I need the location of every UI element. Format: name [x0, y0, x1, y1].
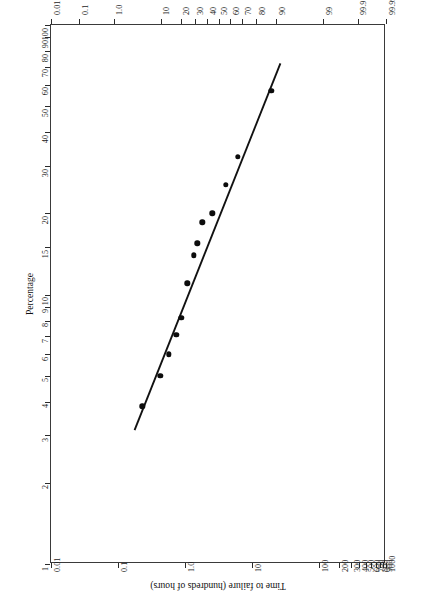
percentage-tick-label: 70 [245, 7, 253, 15]
time-to-failure-tick-label: 30 [42, 169, 50, 177]
percentage-tick [242, 19, 243, 24]
time-to-failure-tick-label: 100 [42, 28, 50, 40]
time-to-failure-tick [45, 376, 50, 377]
time-to-failure-tick-label: 4 [42, 404, 50, 408]
percentage-tick-label: 60 [233, 7, 241, 15]
percentage-tick [219, 19, 220, 24]
fitted-line-segment [135, 63, 281, 430]
percentage-tick [323, 19, 324, 24]
time-to-failure-tick-label: 5 [42, 378, 50, 382]
time-to-failure-tick-label: 60 [42, 87, 50, 95]
time-to-failure-tick [45, 435, 50, 436]
time-to-failure-tick-label: 70 [42, 69, 50, 77]
percentage-tick-label: 99.99 [389, 0, 397, 15]
time-to-failure-tick [45, 106, 50, 107]
time-to-failure-tick [45, 51, 50, 52]
cumulative-hazard-tick-label: 1.0 [188, 562, 196, 572]
percentage-tick-label: 1.0 [116, 5, 124, 15]
percentage-tick-label: 10 [163, 7, 171, 15]
cumulative-hazard-tick [252, 563, 253, 568]
time-to-failure-tick-label: 20 [42, 216, 50, 224]
time-to-failure-tick-label: 15 [42, 250, 50, 258]
time-to-failure-tick [45, 354, 50, 355]
percentage-tick [114, 19, 115, 24]
cumulative-hazard-tick-label: 0.1 [121, 562, 129, 572]
percentage-tick-label: 90 [279, 7, 287, 15]
cumulative-hazard-tick [118, 563, 119, 568]
percentage-tick [161, 19, 162, 24]
time-to-failure-tick-label: 2 [42, 485, 50, 489]
time-to-failure-tick-label: 9 [42, 309, 50, 313]
time-to-failure-tick [45, 483, 50, 484]
time-to-failure-axis-title: Time to failure (hundreds of hours) [150, 581, 285, 592]
time-to-failure-tick-label: 6 [42, 357, 50, 361]
percentage-tick [79, 19, 80, 24]
percentage-tick [358, 19, 359, 24]
percentage-tick-label: 30 [197, 7, 205, 15]
time-to-failure-tick-label: 50 [42, 109, 50, 117]
percentage-tick [386, 19, 387, 24]
cumulative-hazard-tick-label: 1000 [389, 556, 397, 572]
cumulative-hazard-tick-label: 10 [255, 564, 263, 572]
time-to-failure-tick [45, 132, 50, 133]
time-to-failure-tick [45, 336, 50, 337]
time-to-failure-tick [45, 213, 50, 214]
time-to-failure-tick [45, 307, 50, 308]
cumulative-hazard-tick [51, 563, 52, 568]
cumulative-hazard-tick-label: 0.01 [54, 558, 62, 572]
time-to-failure-tick-label: 1 [42, 567, 50, 571]
percentage-tick-label: 20 [183, 7, 191, 15]
time-to-failure-tick-label: 90 [42, 40, 50, 48]
percentage-tick [230, 19, 231, 24]
time-to-failure-tick [45, 85, 50, 86]
time-to-failure-tick-label: 8 [42, 323, 50, 327]
percentage-tick [276, 19, 277, 24]
percentage-tick-label: 40 [210, 7, 218, 15]
percentage-tick [195, 19, 196, 24]
percentage-tick [181, 19, 182, 24]
time-to-failure-tick-label: 3 [42, 438, 50, 442]
time-to-failure-tick-label: 80 [42, 54, 50, 62]
percentage-tick-label: 80 [259, 7, 267, 15]
plot-canvas [51, 25, 384, 562]
time-to-failure-tick [45, 67, 50, 68]
time-to-failure-tick [45, 402, 50, 403]
time-to-failure-tick-label: 10 [42, 297, 50, 305]
time-to-failure-tick [45, 166, 50, 167]
cumulative-hazard-tick [339, 563, 340, 568]
percentage-tick-label: 50 [221, 7, 229, 15]
time-to-failure-tick [45, 247, 50, 248]
percentage-tick-label: 99.9 [360, 1, 368, 15]
percentage-tick [256, 19, 257, 24]
cumulative-hazard-tick-label: 100 [322, 560, 330, 572]
time-to-failure-tick-label: 40 [42, 135, 50, 143]
cumulative-hazard-tick [319, 563, 320, 568]
time-to-failure-tick [45, 295, 50, 296]
plot-frame [50, 24, 385, 563]
time-to-failure-tick [45, 25, 50, 26]
cumulative-hazard-tick [351, 563, 352, 568]
time-to-failure-tick-label: 7 [42, 339, 50, 343]
fitted-line [135, 63, 281, 430]
time-to-failure-tick [45, 321, 50, 322]
percentage-tick-label: 0.01 [54, 1, 62, 15]
percentage-tick-label: 0.1 [82, 5, 90, 15]
percentage-tick-label: 99 [326, 7, 334, 15]
cumulative-hazard-tick [185, 563, 186, 568]
cumulative-hazard-tick-label: 200 [342, 560, 350, 572]
chart-figure: Percentage Cumulative hazard Time to fai… [0, 0, 427, 607]
percentage-tick [207, 19, 208, 24]
percentage-tick [51, 19, 52, 24]
percentage-axis-title: Percentage [24, 272, 35, 314]
time-to-failure-tick [45, 564, 50, 565]
